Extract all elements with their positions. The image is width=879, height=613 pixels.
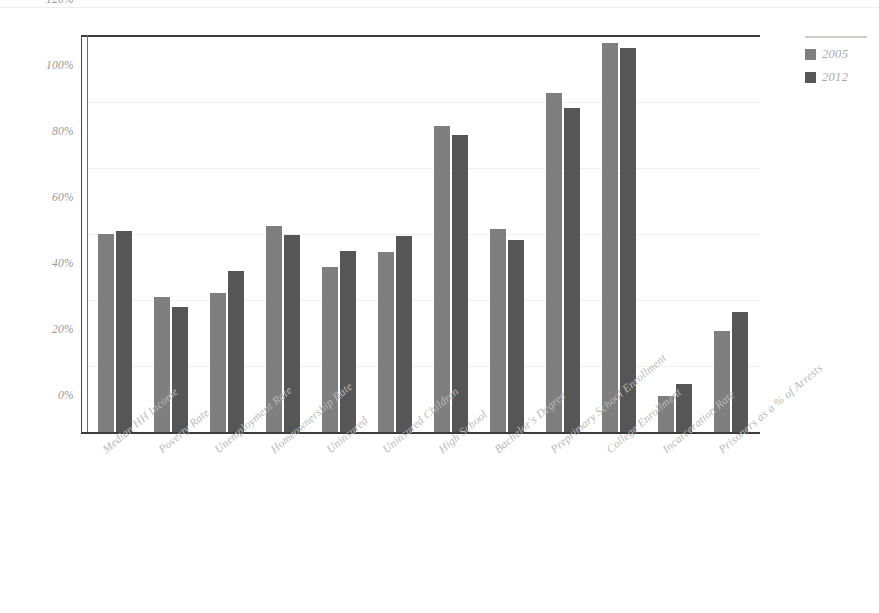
bar-2005[interactable]	[434, 126, 450, 432]
bar-group	[714, 36, 748, 432]
y-axis-tick-label: 100%	[10, 60, 74, 72]
x-axis-tick-labels: Median HH IncomePoverty RateUnemployment…	[88, 432, 788, 613]
bar-2012[interactable]	[340, 251, 356, 433]
bar-group	[98, 36, 132, 432]
bar-group	[154, 36, 188, 432]
bar-group	[602, 36, 636, 432]
bar-group	[434, 36, 468, 432]
bar-2005[interactable]	[98, 234, 114, 432]
bar-2012[interactable]	[284, 235, 300, 432]
legend-item[interactable]: 2005	[805, 47, 879, 62]
legend-divider	[805, 36, 867, 38]
bar-group	[658, 36, 692, 432]
chart-page: 0%20%40%60%80%100%120% Median HH IncomeP…	[0, 0, 879, 613]
legend-item-list: 20052012	[805, 47, 879, 85]
chart-legend: 20052012	[805, 36, 879, 93]
bar-2005[interactable]	[490, 229, 506, 432]
bar-2012[interactable]	[116, 231, 132, 432]
bar-2012[interactable]	[564, 108, 580, 432]
legend-label: 2005	[822, 47, 848, 62]
y-axis-tick-label: 60%	[10, 192, 74, 204]
bar-2005[interactable]	[378, 252, 394, 432]
legend-swatch-icon	[805, 49, 816, 60]
y-axis-tick-label: 40%	[10, 258, 74, 270]
bar-2012[interactable]	[508, 240, 524, 432]
bar-group	[378, 36, 412, 432]
bar-2005[interactable]	[210, 293, 226, 432]
bar-2012[interactable]	[228, 271, 244, 432]
bar-group	[210, 36, 244, 432]
bar-2012[interactable]	[396, 236, 412, 432]
legend-item[interactable]: 2012	[805, 70, 879, 85]
y-axis-tick-label: 20%	[10, 324, 74, 336]
legend-label: 2012	[822, 70, 848, 85]
bar-chart: 0%20%40%60%80%100%120% Median HH IncomeP…	[0, 0, 790, 613]
bar-group	[546, 36, 580, 432]
bar-2005[interactable]	[546, 93, 562, 432]
bar-group	[490, 36, 524, 432]
y-axis-tick-label: 120%	[10, 0, 74, 6]
bar-2012[interactable]	[732, 312, 748, 432]
bar-series-group	[88, 36, 760, 432]
y-axis-tick-labels: 0%20%40%60%80%100%120%	[8, 0, 74, 396]
y-axis-tick-label: 0%	[10, 390, 74, 402]
y-axis-tick-label: 80%	[10, 126, 74, 138]
bar-2012[interactable]	[172, 307, 188, 432]
bar-group	[322, 36, 356, 432]
bar-2005[interactable]	[602, 43, 618, 432]
bar-2005[interactable]	[714, 331, 730, 432]
y-axis-line	[81, 35, 82, 434]
legend-swatch-icon	[805, 72, 816, 83]
bar-group	[266, 36, 300, 432]
